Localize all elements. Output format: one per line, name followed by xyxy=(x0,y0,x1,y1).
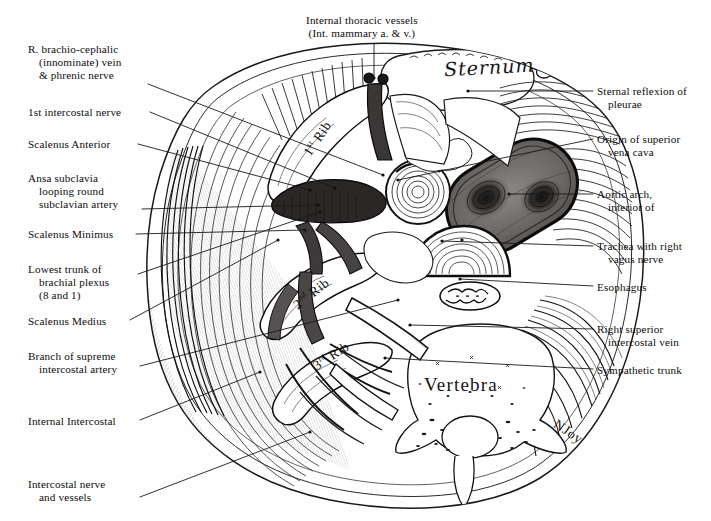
label-line: R. brachio-cephalic xyxy=(28,43,121,56)
leader-endpoint-right-superior-intercostal-vein xyxy=(408,323,411,326)
label-line: intercostal vein xyxy=(597,336,679,349)
label-line: Internal thoracic vessels xyxy=(306,14,418,27)
label-line: Branch of supreme xyxy=(28,350,117,363)
label-scalenus-medius: Scalenus Medius xyxy=(28,315,106,328)
leader-endpoint-scalenus-anterior xyxy=(308,188,311,191)
leader-endpoint-sympathetic-trunk xyxy=(383,356,386,359)
leader-endpoint-origin-of-superior-vena-cava xyxy=(396,178,399,181)
label-sympathetic-trunk: Sympathetic trunk xyxy=(597,364,682,377)
label-line: vagus nerve xyxy=(597,253,682,266)
label-line: (innominate) vein xyxy=(28,56,121,69)
label-line: Scalenus Minimus xyxy=(28,228,113,241)
label-esophagus: Esophagus xyxy=(597,281,647,294)
leader-endpoint-esophagus xyxy=(458,277,461,280)
label-line: Internal Intercostal xyxy=(28,415,116,428)
label-first-intercostal-nerve: 1st intercostal nerve xyxy=(28,106,121,119)
label-line: Aortic arch, xyxy=(597,188,655,201)
anatomical-plate-page: Internal thoracic vessels(Int. mammary a… xyxy=(0,0,711,521)
label-line: Sympathetic trunk xyxy=(597,364,682,377)
label-line: subclavian artery xyxy=(28,198,118,211)
leader-endpoint-sternal-reflexion-of-pleurae xyxy=(466,89,469,92)
leader-endpoint-internal-thoracic-vessels xyxy=(372,76,375,79)
leader-endpoint-aortic-arch-interior xyxy=(507,192,510,195)
label-lowest-trunk-brachial-plexus: Lowest trunk ofbrachial plexus(8 and 1) xyxy=(28,263,109,303)
label-aortic-arch-interior: Aortic arch,interior of xyxy=(597,188,655,214)
leader-endpoint-trachea-with-right-vagus-nerve xyxy=(440,239,443,242)
label-internal-intercostal: Internal Intercostal xyxy=(28,415,116,428)
leader-endpoint-scalenus-medius xyxy=(276,238,279,241)
label-line: vena cava xyxy=(597,146,680,159)
label-line: Trachea with right xyxy=(597,240,682,253)
label-line: Intercostal nerve xyxy=(28,478,105,491)
label-line: pleurae xyxy=(597,98,687,111)
leader-endpoint-scalenus-minimus xyxy=(303,228,306,231)
costal-cartilage-knobs xyxy=(537,64,580,78)
leader-endpoint-first-intercostal-nerve xyxy=(333,186,336,189)
label-line: brachial plexus xyxy=(28,276,109,289)
label-line: Esophagus xyxy=(597,281,647,294)
label-line: & phrenic nerve xyxy=(28,69,121,82)
esophagus xyxy=(440,282,500,310)
label-scalenus-anterior: Scalenus Anterior xyxy=(28,138,110,151)
label-line: interior of xyxy=(597,201,655,214)
label-trachea-with-right-vagus-nerve: Trachea with rightvagus nerve xyxy=(597,240,682,266)
label-sternal-reflexion-of-pleurae: Sternal reflexion ofpleurae xyxy=(597,85,687,111)
label-intercostal-nerve-and-vessels: Intercostal nerveand vessels xyxy=(28,478,105,504)
label-line: (Int. mammary a. & v.) xyxy=(306,27,418,40)
leader-endpoint-intercostal-nerve-and-vessels xyxy=(308,430,311,433)
label-line: (8 and 1) xyxy=(28,289,109,302)
label-line: Right superior xyxy=(597,323,679,336)
leader-endpoint-branch-supreme-intercostal-artery xyxy=(396,298,399,301)
label-line: looping round xyxy=(28,185,118,198)
label-scalenus-minimus: Scalenus Minimus xyxy=(28,228,113,241)
leader-endpoint-r-brachiocephalic-vein-phrenic-nerve xyxy=(381,173,384,176)
label-branch-supreme-intercostal-artery: Branch of supremeintercostal artery xyxy=(28,350,117,376)
leader-endpoint-ansa-subclavia xyxy=(316,203,319,206)
leader-endpoint-internal-intercostal xyxy=(258,370,261,373)
label-line: 1st intercostal nerve xyxy=(28,106,121,119)
label-line: Lowest trunk of xyxy=(28,263,109,276)
label-origin-of-superior-vena-cava: Origin of superiorvena cava xyxy=(597,133,680,159)
label-line: Scalenus Medius xyxy=(28,315,106,328)
label-line: Scalenus Anterior xyxy=(28,138,110,151)
label-line: Origin of superior xyxy=(597,133,680,146)
label-line: and vessels xyxy=(28,491,105,504)
label-ansa-subclavia: Ansa subclavialooping roundsubclavian ar… xyxy=(28,172,118,212)
vertebra-structure-label: Vertebra xyxy=(424,374,498,396)
label-line: Ansa subclavia xyxy=(28,172,118,185)
label-line: intercostal artery xyxy=(28,363,117,376)
label-internal-thoracic-vessels: Internal thoracic vessels(Int. mammary a… xyxy=(306,14,418,40)
label-r-brachiocephalic-vein-phrenic-nerve: R. brachio-cephalic(innominate) vein& ph… xyxy=(28,43,121,83)
label-right-superior-intercostal-vein: Right superiorintercostal vein xyxy=(597,323,679,349)
leader-endpoint-lowest-trunk-brachial-plexus xyxy=(318,210,321,213)
label-line: Sternal reflexion of xyxy=(597,85,687,98)
